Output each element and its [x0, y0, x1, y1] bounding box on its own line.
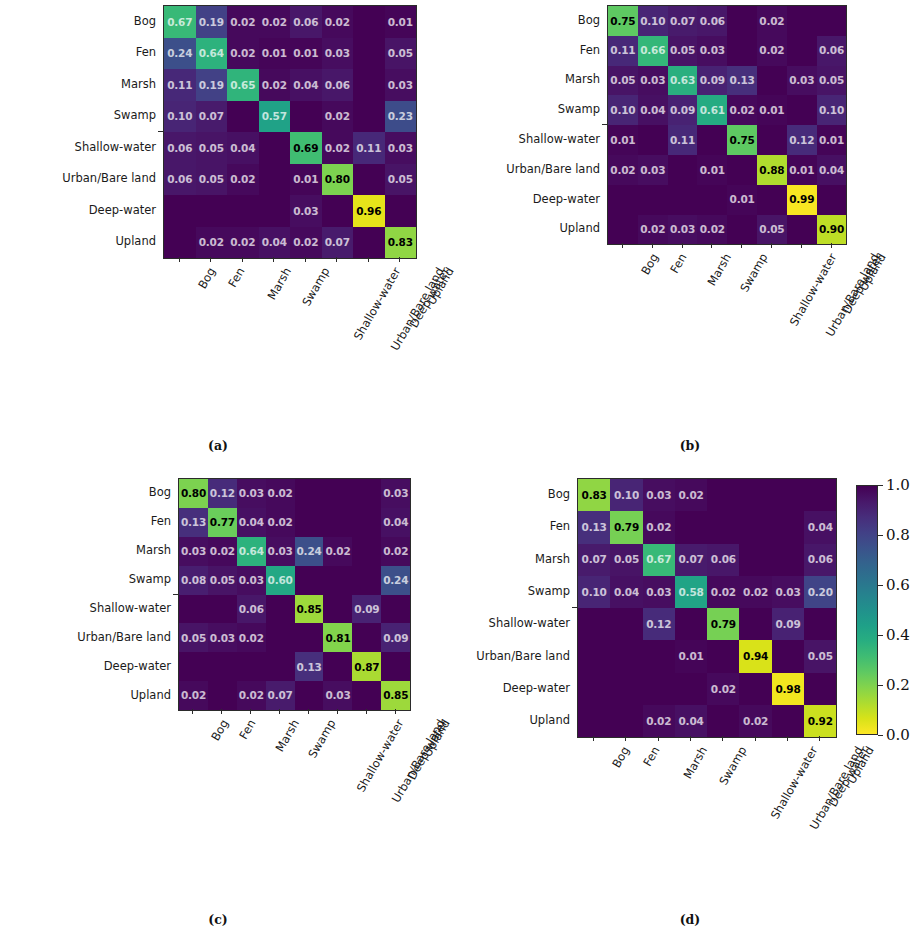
heatmap-cell-value: 0.09 [383, 633, 408, 644]
heatmap-cell-value: 0.61 [700, 105, 725, 116]
heatmap-cell: 0.07 [578, 544, 610, 576]
heatmap-cell [804, 673, 836, 705]
heatmap-cell [643, 640, 675, 672]
heatmap-cell-value: 0.63 [670, 75, 695, 86]
heatmap-cell-value: 0.01 [293, 174, 318, 185]
heatmap-cell: 0.79 [610, 511, 642, 543]
heatmap-cell-value: 0.92 [808, 716, 833, 727]
y-tick-label-fen: Fen [437, 510, 577, 542]
heatmap-cell-value: 0.04 [614, 587, 639, 598]
heatmap-cell-value: 0.02 [711, 684, 736, 695]
heatmap-cell-value: 0.02 [700, 224, 725, 235]
heatmap-cell-value: 0.75 [610, 16, 635, 27]
heatmap-cell-value: 0.03 [640, 165, 665, 176]
x-tick-mark [787, 736, 788, 741]
heatmap-cell-value: 0.01 [759, 105, 784, 116]
heatmap-cell-value: 0.05 [808, 651, 833, 662]
heatmap-cell-value: 0.09 [775, 619, 800, 630]
heatmap-cell-value: 0.94 [743, 651, 768, 662]
heatmap-cell-value: 0.02 [325, 546, 350, 557]
heatmap-cell-value: 0.03 [646, 490, 671, 501]
heatmap-cell [610, 608, 642, 640]
heatmap-cell-value: 0.07 [582, 554, 607, 565]
heatmap-cell: 0.04 [610, 576, 642, 608]
heatmap-cell-value: 0.02 [262, 17, 287, 28]
colorbar-tick-label: 0.8 [886, 526, 910, 544]
heatmap-cell-value: 0.02 [262, 80, 287, 91]
heatmap-cell-value: 0.04 [808, 522, 833, 533]
heatmap-cell: 0.13 [578, 511, 610, 543]
x-tick-mark [819, 736, 820, 741]
heatmap-cell-value: 0.10 [614, 490, 639, 501]
x-tick-label-bog: Bog [609, 744, 632, 770]
heatmap-cell-value: 0.02 [230, 17, 255, 28]
heatmap-cell-value: 0.07 [678, 554, 703, 565]
heatmap-cell-value: 0.04 [678, 716, 703, 727]
heatmap-cell-value: 0.02 [181, 690, 206, 701]
heatmap-cell-value: 0.80 [325, 174, 350, 185]
heatmap-cell: 0.98 [772, 673, 804, 705]
heatmap-cell-value: 0.12 [646, 619, 671, 630]
heatmap-cell: 0.83 [578, 479, 610, 511]
heatmap-cell-value: 0.60 [268, 575, 293, 586]
heatmap-cell-value: 0.01 [610, 135, 635, 146]
heatmap-cell-value: 0.13 [181, 517, 206, 528]
heatmap-cell-value: 0.04 [262, 237, 287, 248]
heatmap-cell-value: 0.11 [356, 143, 381, 154]
heatmap-cell-value: 0.03 [325, 48, 350, 59]
heatmap-cell: 0.02 [643, 705, 675, 737]
heatmap-cell: 0.06 [707, 544, 739, 576]
heatmap-cell-value: 0.24 [167, 48, 192, 59]
heatmap-cell [707, 511, 739, 543]
heatmap-cell-value: 0.04 [230, 143, 255, 154]
heatmap-cell-value: 0.67 [646, 554, 671, 565]
heatmap-cell-value: 0.09 [354, 604, 379, 615]
heatmap-cell-value: 0.81 [325, 633, 350, 644]
heatmap-cell-value: 0.69 [293, 143, 318, 154]
heatmap-cell-value: 0.03 [388, 143, 413, 154]
heatmap-cell: 0.02 [739, 705, 771, 737]
heatmap-cell-value: 0.20 [808, 587, 833, 598]
heatmap-cell-value: 0.03 [268, 546, 293, 557]
heatmap-cell-value: 0.07 [670, 16, 695, 27]
heatmap-cell-value: 0.07 [199, 111, 224, 122]
heatmap-cell-value: 0.01 [700, 165, 725, 176]
heatmap-cell [739, 479, 771, 511]
heatmap-cell-value: 0.99 [789, 194, 814, 205]
heatmap-cell-value: 0.02 [325, 111, 350, 122]
confusion-matrix-panel-d: 0.830.100.030.020.130.790.020.040.070.05… [0, 0, 911, 939]
heatmap-cell-value: 0.03 [640, 75, 665, 86]
colorbar-tick-mark [878, 535, 883, 536]
heatmap-cell-value: 0.06 [819, 45, 844, 56]
heatmap-cell: 0.03 [772, 576, 804, 608]
heatmap-cell [675, 608, 707, 640]
heatmap-cell-value: 0.05 [759, 224, 784, 235]
heatmap-cell-value: 0.98 [775, 684, 800, 695]
heatmap-cell: 0.02 [707, 576, 739, 608]
colorbar-gradient [856, 485, 878, 735]
heatmap-cell [578, 705, 610, 737]
heatmap-cell-value: 0.02 [678, 490, 703, 501]
heatmap-cell-value: 0.88 [759, 165, 784, 176]
x-tick-mark [722, 736, 723, 741]
heatmap-cell: 0.05 [804, 640, 836, 672]
colorbar-tick-mark [878, 485, 883, 486]
heatmap-cell-value: 0.96 [356, 206, 381, 217]
heatmap-cell-value: 0.66 [640, 45, 665, 56]
heatmap-cell-value: 0.77 [210, 517, 235, 528]
heatmap-cell-value: 0.03 [210, 633, 235, 644]
heatmap-cell-value: 0.11 [610, 45, 635, 56]
heatmap-cell: 0.01 [675, 640, 707, 672]
heatmap-cell-value: 0.05 [199, 143, 224, 154]
heatmap-cell: 0.58 [675, 576, 707, 608]
heatmap-cell-value: 0.87 [354, 662, 379, 673]
heatmap-cell-value: 0.03 [181, 546, 206, 557]
heatmap-cell-value: 0.67 [167, 17, 192, 28]
colorbar-tick-mark [878, 685, 883, 686]
heatmap-cell-value: 0.83 [388, 237, 413, 248]
heatmap-cell-value: 0.04 [819, 165, 844, 176]
colorbar-tick-label: 0.0 [886, 726, 910, 744]
heatmap-cell [643, 673, 675, 705]
heatmap-cell-value: 0.06 [239, 604, 264, 615]
heatmap-cell-value: 0.06 [700, 16, 725, 27]
